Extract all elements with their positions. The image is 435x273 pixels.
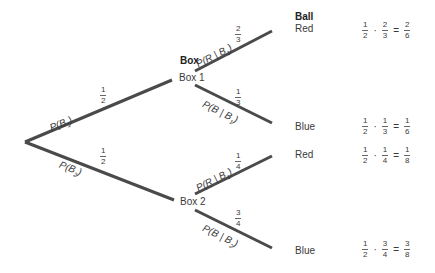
node-blue-2: Blue xyxy=(295,245,315,256)
product-red-2: 12 · 14 = 18 xyxy=(362,146,411,165)
node-red-2: Red xyxy=(295,149,313,160)
product-red-1: 12 · 23 = 26 xyxy=(362,21,411,40)
node-box2: Box 2 xyxy=(180,196,206,207)
ball-column-header: Ball xyxy=(295,11,313,22)
product-blue-1: 12 · 13 = 16 xyxy=(362,117,411,136)
product-blue-2: 12 · 34 = 38 xyxy=(362,240,411,259)
fraction-bl2: 34 xyxy=(235,209,241,228)
fraction-r2: 14 xyxy=(235,152,241,171)
fraction-b2: 12 xyxy=(100,147,106,166)
node-box1: Box 1 xyxy=(179,72,205,83)
fraction-r1: 23 xyxy=(235,25,241,44)
branch-box1 xyxy=(25,80,172,142)
node-red-1: Red xyxy=(295,23,313,34)
node-blue-1: Blue xyxy=(295,121,315,132)
fraction-b1: 12 xyxy=(100,86,106,105)
fraction-bl1: 13 xyxy=(235,88,241,107)
